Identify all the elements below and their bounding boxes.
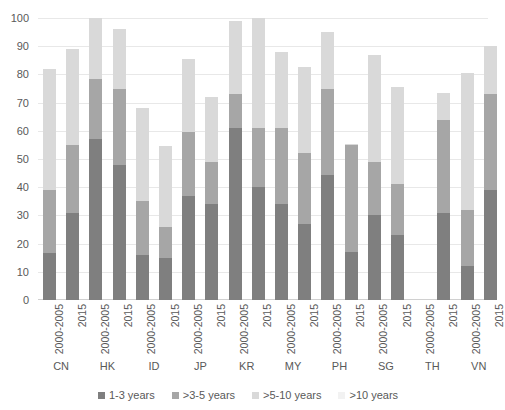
y-axis: 0102030405060708090100 [0, 18, 34, 300]
legend-item[interactable]: >3-5 years [172, 389, 235, 401]
bar-stack [89, 18, 102, 300]
x-axis-period-label: 2000-2005 [100, 304, 111, 354]
bar-segment [298, 224, 311, 300]
bar-segment [437, 93, 450, 120]
x-axis-period-label: 2000-2005 [425, 304, 436, 354]
bar-segment [229, 128, 242, 300]
bars-layer [38, 18, 488, 300]
y-axis-tick-label: 30 [17, 210, 29, 221]
x-axis-group-label-th: TH [425, 360, 440, 373]
bar-segment [43, 69, 56, 190]
bar-segment [345, 145, 358, 252]
x-axis-period-label: 2015 [170, 304, 181, 327]
y-axis-tick-label: 90 [17, 41, 29, 52]
legend-swatch-icon [172, 392, 179, 399]
bar-segment [345, 252, 358, 300]
bar-segment [113, 29, 126, 88]
x-axis-period-label: 2015 [216, 304, 227, 327]
x-axis-period-label: 2000-2005 [332, 304, 343, 354]
bar-segment [113, 165, 126, 300]
legend-swatch-icon [338, 392, 345, 399]
bar-segment [205, 97, 218, 162]
bar-segment [205, 204, 218, 300]
bar-segment [391, 87, 404, 184]
bar-segment [252, 128, 265, 187]
x-axis-period-label: 2000-2005 [471, 304, 482, 354]
bar-segment [368, 215, 381, 300]
bar-segment [43, 253, 56, 300]
x-axis-period-label: 2000-2005 [54, 304, 65, 354]
bar-stack [298, 67, 311, 300]
bar-segment [298, 67, 311, 153]
bar-segment [391, 235, 404, 300]
bar-segment [66, 145, 79, 213]
bar-segment [66, 213, 79, 300]
bar-segment [43, 190, 56, 253]
bar-segment [391, 184, 404, 235]
bar-segment [89, 139, 102, 300]
bar-segment [229, 21, 242, 94]
bar-stack [461, 73, 474, 300]
bar-segment [345, 144, 358, 145]
bar-segment [461, 210, 474, 266]
legend-item[interactable]: >5-10 years [252, 389, 321, 401]
x-axis-group-labels: CNHKIDJPKRMYPHSGTHVN [38, 360, 488, 376]
x-axis-period-label: 2000-2005 [193, 304, 204, 354]
bar-segment [159, 146, 172, 226]
bar-segment [89, 18, 102, 79]
y-axis-tick-label: 40 [17, 182, 29, 193]
bar-segment [484, 190, 497, 300]
bar-segment [368, 55, 381, 162]
x-axis-period-label: 2015 [355, 304, 366, 327]
y-axis-tick-label: 20 [17, 238, 29, 249]
y-axis-tick-label: 70 [17, 97, 29, 108]
chart-legend: 1-3 years>3-5 years>5-10 years>10 years [0, 386, 496, 404]
bar-segment [461, 73, 474, 210]
bar-stack [66, 49, 79, 300]
x-axis-period-label: 2000-2005 [239, 304, 250, 354]
bar-segment [298, 153, 311, 224]
bar-stack [43, 69, 56, 300]
x-axis-period-label: 2015 [309, 304, 320, 327]
bar-segment [159, 258, 172, 300]
legend-swatch-icon [98, 392, 105, 399]
bar-segment [229, 94, 242, 128]
bar-stack [136, 108, 149, 300]
x-axis-group-label-id: ID [148, 360, 159, 373]
bar-segment [252, 187, 265, 300]
bar-segment [182, 196, 195, 300]
bar-segment [205, 162, 218, 204]
bar-stack [182, 59, 195, 300]
x-axis-group-label-kr: KR [239, 360, 254, 373]
bar-segment [89, 79, 102, 140]
legend-label: >3-5 years [183, 389, 235, 401]
bar-segment [275, 52, 288, 128]
bar-segment [437, 213, 450, 300]
x-axis-period-label: 2015 [494, 304, 505, 327]
bar-stack [229, 21, 242, 300]
bar-segment [437, 120, 450, 213]
bar-stack [368, 55, 381, 300]
y-axis-tick-label: 100 [11, 13, 29, 24]
bar-segment [484, 46, 497, 94]
x-axis-group-label-cn: CN [53, 360, 69, 373]
bar-stack [252, 18, 265, 300]
legend-item[interactable]: 1-3 years [98, 389, 155, 401]
bar-stack [159, 146, 172, 300]
bar-segment [182, 132, 195, 195]
x-axis-period-labels: 2000-200520152000-200520152000-200520152… [38, 302, 488, 358]
bar-segment [321, 175, 334, 300]
x-axis-period-label: 2015 [262, 304, 273, 327]
bar-stack [113, 29, 126, 300]
bar-segment [252, 18, 265, 128]
x-axis-period-label: 2015 [123, 304, 134, 327]
bar-segment [136, 108, 149, 201]
x-axis-group-label-my: MY [285, 360, 302, 373]
bar-segment [136, 201, 149, 255]
y-axis-tick-label: 60 [17, 125, 29, 136]
legend-item[interactable]: >10 years [338, 389, 398, 401]
x-axis-group-label-ph: PH [332, 360, 347, 373]
x-axis-period-label: 2015 [77, 304, 88, 327]
y-axis-tick-label: 80 [17, 69, 29, 80]
bar-stack [275, 52, 288, 300]
